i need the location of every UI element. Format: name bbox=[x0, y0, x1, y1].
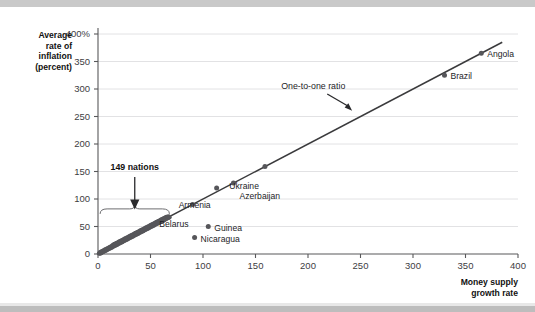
x-tick-label: 0 bbox=[95, 260, 100, 271]
x-tick-label: 250 bbox=[353, 260, 369, 271]
y-tick-label: 300 bbox=[74, 83, 90, 94]
y-tick-label: 350 bbox=[74, 56, 90, 67]
data-point-brazil bbox=[442, 73, 447, 78]
x-tick-label: 400 bbox=[510, 260, 526, 271]
data-point-angola bbox=[479, 51, 484, 56]
y-axis-title-line: inflation bbox=[39, 51, 72, 61]
point-label-azerbaijan: Azerbaijan bbox=[239, 191, 280, 201]
y-tick-label: 0 bbox=[85, 248, 90, 259]
x-tick-label: 100 bbox=[195, 260, 211, 271]
x-tick-label: 50 bbox=[145, 260, 156, 271]
y-axis-title-line: rate of bbox=[46, 41, 72, 51]
data-point-ukraine bbox=[262, 164, 267, 169]
point-label-brazil: Brazil bbox=[451, 71, 473, 81]
point-label-nicaragua: Nicaragua bbox=[201, 234, 240, 244]
y-tick-label: 200 bbox=[74, 138, 90, 149]
x-axis-title-line: growth rate bbox=[471, 288, 518, 298]
y-axis-title-line: (percent) bbox=[35, 62, 72, 72]
point-label-ukraine: Ukraine bbox=[229, 181, 259, 191]
x-tick-label: 300 bbox=[405, 260, 421, 271]
data-point-armenia bbox=[214, 186, 219, 191]
point-label-armenia: Armenia bbox=[179, 200, 211, 210]
nations-arrowhead bbox=[130, 199, 139, 209]
x-tick-label: 350 bbox=[458, 260, 474, 271]
point-label-guinea: Guinea bbox=[214, 223, 242, 233]
y-tick-label: 50 bbox=[79, 221, 90, 232]
x-tick-label: 150 bbox=[248, 260, 264, 271]
one-to-one-arrow-shaft bbox=[327, 94, 349, 107]
y-axis-title-line: Average bbox=[38, 30, 72, 40]
y-tick-label: 250 bbox=[74, 111, 90, 122]
y-tick-label: 100 bbox=[74, 193, 90, 204]
scatter-chart: 050100150200250300350400%050100150200250… bbox=[0, 0, 535, 312]
one-to-one-annotation-label: One-to-one ratio bbox=[281, 81, 345, 91]
nations-annotation-label: 149 nations bbox=[111, 162, 160, 172]
x-tick-label: 200 bbox=[300, 260, 316, 271]
x-axis-title-line: Money supply bbox=[461, 277, 519, 287]
figure-root: 050100150200250300350400%050100150200250… bbox=[0, 0, 535, 312]
y-tick-label: 150 bbox=[74, 166, 90, 177]
data-point-guinea bbox=[206, 224, 211, 229]
data-point-nicaragua bbox=[192, 235, 197, 240]
point-label-belarus: Belarus bbox=[159, 219, 188, 229]
point-label-angola: Angola bbox=[487, 49, 514, 59]
